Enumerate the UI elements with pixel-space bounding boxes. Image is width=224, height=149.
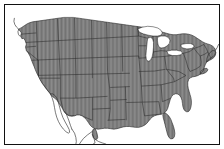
map-frame [4, 4, 220, 145]
us-choropleth-map [5, 5, 219, 144]
lake-erie-outline [167, 50, 183, 55]
lake-ontario-outline [181, 44, 194, 49]
map-figure: Map of the contiguous United States Outl… [0, 0, 224, 149]
